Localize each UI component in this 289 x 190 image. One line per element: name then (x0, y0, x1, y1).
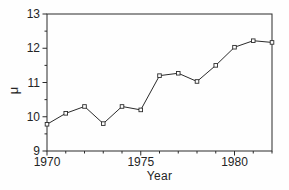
x-tick-label: 1970 (34, 155, 61, 169)
data-point-marker (45, 122, 49, 126)
x-tick-label: 1975 (127, 155, 154, 169)
data-point-marker (233, 45, 237, 49)
y-tick-label: 13 (27, 7, 41, 21)
line-chart-figure: 910111213197019751980 Year μ (0, 0, 289, 190)
plot-frame (47, 14, 272, 151)
data-point-marker (120, 105, 124, 109)
data-point-marker (195, 80, 199, 84)
data-point-marker (270, 41, 274, 45)
data-point-marker (251, 39, 255, 43)
data-point-marker (64, 112, 68, 116)
x-axis-title: Year (47, 169, 272, 183)
y-tick-label: 11 (28, 76, 41, 90)
chart-svg: 910111213197019751980 (0, 0, 289, 190)
data-point-marker (139, 108, 143, 112)
y-tick-label: 12 (27, 41, 41, 55)
y-tick-label: 10 (27, 110, 41, 124)
data-point-marker (214, 64, 218, 68)
data-point-marker (101, 122, 105, 126)
x-tick-label: 1980 (221, 155, 248, 169)
data-point-marker (158, 74, 162, 78)
data-point-marker (176, 71, 180, 75)
y-axis-title: μ (6, 80, 21, 102)
data-line (47, 41, 272, 125)
data-point-marker (83, 105, 87, 109)
